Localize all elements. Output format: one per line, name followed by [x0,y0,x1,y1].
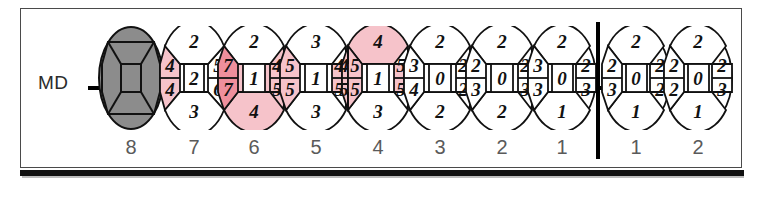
t4-lo-bottom: 5 [340,79,349,100]
t2-lo-top: 2 [470,55,481,76]
t3-top: 2 [434,31,445,52]
t2-bottom: 2 [496,101,507,122]
t7-lo-top: 4 [164,55,175,76]
t6-bottom: 4 [248,101,259,122]
r1-top: 2 [630,31,641,52]
r2-top: 2 [692,31,703,52]
tooth-8-missing[interactable] [98,26,164,130]
tooth-label-2: 2 [482,136,522,159]
r2-center: 0 [693,68,703,89]
periodontal-chart: MD [0,0,760,203]
tooth-label-1: 1 [542,136,582,159]
t5-center: 1 [311,68,321,89]
t4-lo-top: 4 [340,55,349,76]
t4-bottom: 3 [372,101,383,122]
tooth-label-r2: 2 [678,136,718,159]
t3-lo-bottom: 4 [408,79,419,100]
t1-lo-top: 3 [532,55,543,76]
r1-bottom: 1 [631,101,641,122]
r1-lo-bottom: 3 [606,79,617,100]
tooth-2-right[interactable]: 2 2 2 0 2 3 1 [662,26,724,130]
t7-center: 2 [188,68,199,89]
t1-top: 2 [556,31,567,52]
t6-lo-top: 7 [223,55,234,76]
t3-lo-top: 3 [408,55,419,76]
r2-ri-top: 2 [716,55,727,76]
tooth-1-left[interactable]: 2 3 3 0 2 3 1 [526,26,588,130]
tooth-label-6: 6 [234,136,274,159]
t3-bottom: 2 [434,101,445,122]
t3-center: 0 [435,68,445,89]
t5-lo-bottom: 5 [285,79,295,100]
t1-ri-top: 2 [580,55,591,76]
t6-center: 1 [249,68,259,89]
t2-center: 0 [497,68,507,89]
t4-li-top: 5 [350,55,360,76]
t1-bottom: 1 [557,101,567,122]
tooth-4[interactable]: 4 4 5 5 5 1 5 5 3 4 3 [340,26,402,130]
t7-bottom: 3 [188,101,199,122]
t7-lo-bottom: 4 [164,79,175,100]
tooth-label-4: 4 [358,136,398,159]
tooth-7[interactable]: 2 4 4 2 5 6 3 [158,26,220,130]
t1-center: 0 [557,68,567,89]
tooth-label-r1: 1 [616,136,656,159]
tooth-1-right[interactable]: 2 2 3 0 2 2 1 [600,26,662,130]
t4-center: 1 [373,68,383,89]
tooth-label-5: 5 [296,136,336,159]
tooth-label-3: 3 [420,136,460,159]
r1-center: 0 [631,68,641,89]
t4-top: 4 [372,31,383,52]
r2-lo-top: 2 [668,55,679,76]
t1-lo-bottom: 3 [532,79,543,100]
r2-lo-bottom: 2 [668,79,679,100]
t7-top: 2 [188,31,199,52]
tooth-label-8: 8 [111,136,151,159]
r2-bottom: 1 [693,101,703,122]
t1-ri-bottom: 3 [580,79,591,100]
t5-lo-top: 5 [285,55,295,76]
t6-lo-bottom: 7 [223,79,234,100]
md-axis-label: MD [38,72,90,94]
tooth-label-7: 7 [174,136,214,159]
tooth-3[interactable]: 2 3 4 0 2 2 3 3 2 [402,26,464,130]
r1-lo-top: 2 [606,55,617,76]
t5-top: 3 [310,31,321,52]
t6-top: 2 [248,31,259,52]
tooth-5[interactable]: 3 5 5 1 4 5 5 5 3 [278,26,340,130]
tooth-6[interactable]: 2 7 7 1 4 5 5 5 4 [216,26,278,130]
r2-ri-bottom: 3 [716,79,727,100]
tooth-2[interactable]: 2 2 3 0 2 3 3 3 2 [464,26,526,130]
t5-bottom: 3 [310,101,321,122]
t4-li-bottom: 5 [350,79,360,100]
t2-top: 2 [496,31,507,52]
t2-lo-bottom: 3 [470,79,481,100]
chart-base-bar-shadow [22,176,744,178]
